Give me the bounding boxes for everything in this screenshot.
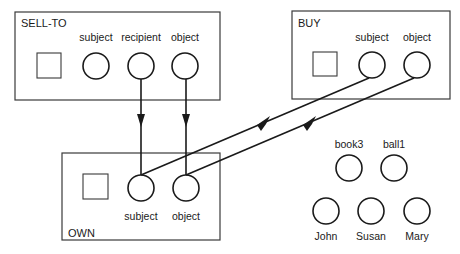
- frame-buy-type-square: [313, 52, 337, 76]
- frame-sell-to-title: SELL-TO: [21, 17, 67, 29]
- buy-object-label: object: [403, 31, 431, 43]
- entity-john-label: John: [315, 230, 338, 242]
- frame-buy: BUY subject object: [292, 11, 450, 99]
- frame-sell-to: SELL-TO subject recipient object: [15, 12, 220, 100]
- buy-subject-node: [359, 52, 385, 78]
- frame-sell-to-type-square: [37, 53, 61, 78]
- entity-book3-node: [336, 155, 362, 181]
- entity-book3-label: book3: [335, 138, 364, 150]
- arrowhead-diagonal-icon: [257, 116, 270, 131]
- own-subject-node: [128, 175, 154, 201]
- sell-to-object-label: object: [171, 31, 199, 43]
- frame-diagram: SELL-TO subject recipient object BUY sub…: [0, 0, 460, 254]
- own-object-label: object: [172, 210, 200, 222]
- sell-to-subject-node: [83, 53, 109, 79]
- entities: book3 ball1 John Susan Mary: [313, 138, 430, 242]
- arrowhead-down-icon: [182, 114, 190, 127]
- frame-own-type-square: [83, 174, 108, 199]
- entity-susan-label: Susan: [356, 230, 386, 242]
- sell-to-subject-label: subject: [79, 31, 112, 43]
- sell-to-object-node: [172, 53, 198, 79]
- sell-to-recipient-node: [128, 53, 154, 79]
- entity-mary-node: [404, 198, 430, 224]
- arrowhead-down-icon: [137, 114, 145, 127]
- buy-object-node: [404, 52, 430, 78]
- own-object-node: [173, 175, 199, 201]
- frame-own-title: OWN: [68, 227, 95, 239]
- entity-mary-label: Mary: [405, 230, 429, 242]
- entity-ball1-label: ball1: [383, 138, 405, 150]
- arrowhead-diagonal-icon: [303, 116, 316, 131]
- frame-buy-title: BUY: [298, 17, 321, 29]
- entity-susan-node: [358, 198, 384, 224]
- buy-subject-label: subject: [355, 31, 388, 43]
- entity-ball1-node: [381, 155, 407, 181]
- sell-to-recipient-label: recipient: [121, 31, 161, 43]
- own-subject-label: subject: [124, 210, 157, 222]
- entity-john-node: [313, 198, 339, 224]
